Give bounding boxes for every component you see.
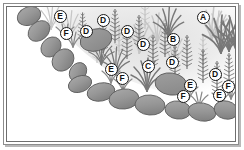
callout-badge-e: E [105,63,118,76]
callout-badge-d: D [97,14,110,27]
callout-badge-a: A [197,11,210,24]
callout-badge-d: D [121,25,134,38]
callout-badge-c: C [142,60,155,73]
callout-badge-e: E [54,10,67,23]
callout-badge-d: D [209,68,222,81]
callout-badge-d: D [80,25,93,38]
callout-badge-d: D [166,56,179,69]
callout-badge-f: F [60,27,73,40]
callout-badge-f: F [177,90,190,103]
callout-badge-d: D [137,38,150,51]
callout-badge-f: F [116,72,129,85]
callout-badge-b: B [167,33,180,46]
figure-container: ABCDDDDDDEEEEFFFF [0,0,244,150]
callout-badge-f: F [222,80,235,93]
